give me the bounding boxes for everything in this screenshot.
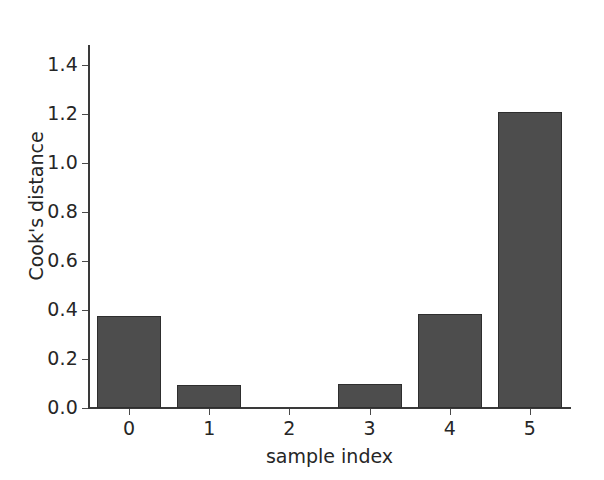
y-axis-tick-label: 1.2 [30, 104, 78, 123]
y-axis-tick-label-wrap: 1.0 [0, 153, 78, 172]
bar-5 [498, 112, 562, 408]
bar-0 [97, 316, 161, 408]
bar-3 [338, 384, 402, 408]
y-axis-tick-label: 1.4 [30, 55, 78, 74]
plot-area [89, 45, 570, 408]
x-axis-tick-label: 3 [350, 417, 390, 439]
y-axis-tick-label-wrap: 0.0 [0, 398, 78, 417]
x-axis-tick [289, 408, 290, 415]
y-axis-tick-label: 0.6 [30, 251, 78, 270]
y-axis-tick-label-wrap: 0.4 [0, 300, 78, 319]
y-axis-tick-label-wrap: 0.6 [0, 251, 78, 270]
x-axis-tick-label: 1 [189, 417, 229, 439]
y-axis-tick-label: 0.4 [30, 300, 78, 319]
bar-1 [177, 385, 241, 408]
y-axis-tick-label: 0.2 [30, 349, 78, 368]
bar-4 [418, 314, 482, 408]
cooks-distance-bar-chart: Cook's distance 0.00.20.40.60.81.01.21.4… [0, 0, 604, 480]
x-axis-tick-label: 2 [269, 417, 309, 439]
x-axis-tick-label: 0 [109, 417, 149, 439]
y-axis-tick-label-wrap: 1.4 [0, 55, 78, 74]
y-axis-tick-label-wrap: 1.2 [0, 104, 78, 123]
y-axis-tick-label: 0.8 [30, 202, 78, 221]
x-axis-tick [370, 408, 371, 415]
x-axis-tick-label: 4 [430, 417, 470, 439]
y-axis-tick-label-wrap: 0.2 [0, 349, 78, 368]
y-axis-tick-label-wrap: 0.8 [0, 202, 78, 221]
x-axis-tick [530, 408, 531, 415]
x-axis-tick [129, 408, 130, 415]
x-axis-tick [209, 408, 210, 415]
y-axis-tick-label: 1.0 [30, 153, 78, 172]
y-axis-tick-label: 0.0 [30, 398, 78, 417]
x-axis-tick [450, 408, 451, 415]
x-axis-tick-label: 5 [510, 417, 550, 439]
x-axis-title: sample index [89, 445, 570, 467]
